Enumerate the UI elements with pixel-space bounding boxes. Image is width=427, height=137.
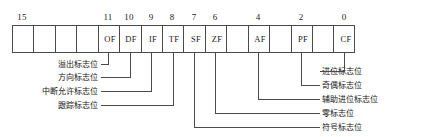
flags-register-diagram: 15 11 10 9 8 7 6 4 2 0 OF DF IF TF SF ZF…: [0, 0, 427, 137]
leader-tf: [101, 53, 173, 106]
leader-cf: [320, 53, 344, 72]
leader-af: [259, 53, 321, 100]
diagram-lines: [0, 0, 427, 137]
leader-zf: [216, 53, 321, 114]
leader-pf: [302, 53, 321, 86]
leader-df: [101, 53, 130, 78]
leader-of: [101, 53, 109, 65]
